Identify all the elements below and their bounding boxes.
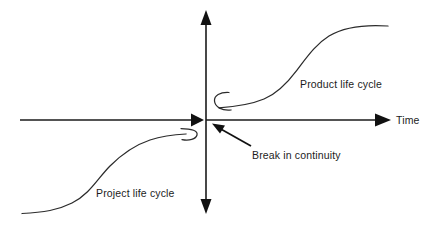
time-axis-arrow-head-icon: [375, 114, 391, 127]
break-in-continuity-pointer-line: [219, 128, 251, 146]
product-life-cycle-label: Product life cycle: [300, 78, 382, 90]
break-in-continuity-pointer-group: [212, 124, 251, 147]
break-in-continuity-label: Break in continuity: [252, 149, 341, 161]
project-life-cycle-curve: [22, 134, 186, 214]
horizontal-axis-inner-arrow-head-icon: [191, 114, 204, 127]
lifecycle-diagram-canvas: Time Product life cycle Project life cyc…: [0, 0, 441, 227]
vertical-axis-top-arrow-head-icon: [201, 10, 212, 25]
axis-group: [20, 10, 391, 214]
vertical-axis-bottom-arrow-head-icon: [201, 199, 212, 214]
product-life-cycle-curve-group: [214, 26, 388, 111]
project-life-cycle-label: Project life cycle: [96, 187, 175, 199]
project-life-cycle-curve-group: [22, 129, 197, 214]
product-life-cycle-curve: [219, 26, 388, 108]
diagram-root: Time Product life cycle Project life cyc…: [0, 0, 441, 227]
time-axis-label: Time: [396, 114, 420, 126]
break-in-continuity-arrow-head-icon: [212, 124, 225, 134]
